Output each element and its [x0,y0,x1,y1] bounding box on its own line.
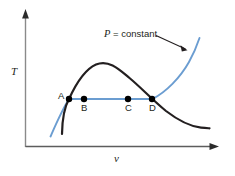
state-point-a-marker [66,96,72,102]
annotation-arrow [156,36,188,52]
pressure-symbol: P [104,28,110,39]
state-point-d-label: D [149,103,156,113]
p-constant-annotation: P = constant [104,29,157,40]
annotation-arrowhead [181,45,188,51]
p-constant-text: = constant [113,28,157,39]
isobar-superheat-branch [153,38,200,99]
isobar-curve-group [51,38,200,137]
state-point-b-label: B [81,103,87,113]
y-axis-arrowhead [22,9,29,19]
y-axis-label: T [11,66,17,77]
thermodynamic-tv-diagram: T v A B C D P = constant [0,0,235,176]
state-point-c-label: C [125,103,132,113]
state-point-a-label: A [58,91,64,101]
x-axis-arrowhead [210,143,220,150]
x-axis-label: v [114,153,119,164]
plot-canvas [0,0,235,176]
